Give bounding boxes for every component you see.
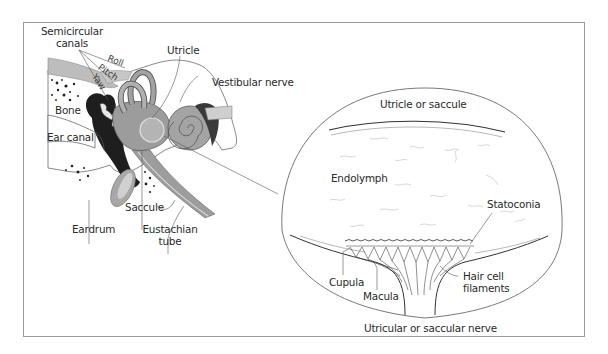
label-utricle: Utricle [167,44,199,56]
label-utricle-or-saccule: Utricle or saccule [380,98,467,110]
diagram-artwork [0,0,608,354]
label-eustachian-tube: Eustachian tube [142,223,198,247]
label-utricular-or-saccular-nerve: Utricular or saccular nerve [364,322,497,334]
label-vestibular-nerve: Vestibular nerve [212,76,294,88]
label-hair-cell-filaments: Hair cell filaments [463,270,510,294]
label-ear-canal: Ear canal [47,131,94,143]
label-macula: Macula [363,290,399,302]
label-cupula: Cupula [329,276,364,288]
label-saccule: Saccule [125,201,164,213]
label-semicircular-canals: Semicircular canals [37,25,107,49]
label-statoconia: Statoconia [487,198,540,210]
label-eardrum: Eardrum [72,223,115,235]
label-bone: Bone [55,104,81,116]
label-endolymph: Endolymph [331,172,388,184]
